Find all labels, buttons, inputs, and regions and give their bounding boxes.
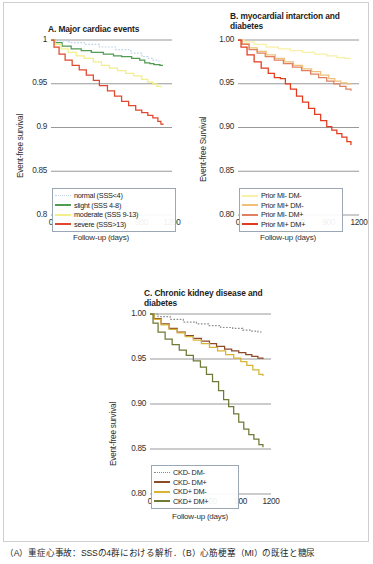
panel-a-y-tick-3: 0.85 [15, 166, 47, 175]
panel-c-curve-ckd_neg_dm_neg [150, 314, 263, 332]
panel-c-legend-item-ckd_neg_dm_neg[interactable]: CKD- DM- [154, 468, 235, 478]
panel-b-legend-label-mi_neg_dm_pos: Prior MI- DM+ [261, 210, 303, 219]
panel-b-y-tick-3: 0.85 [202, 166, 234, 175]
panel-b-y-tick-0: 1.00 [202, 35, 234, 44]
panel-a-legend[interactable]: normal (SSS<4)slight (SSS 4-8)moderate (… [52, 188, 176, 232]
panel-b-legend-label-mi_pos_dm_neg: Prior MI+ DM- [261, 201, 303, 210]
panel-a-legend-label-slight: slight (SSS 4-8) [74, 201, 121, 210]
panel-b-title: B. myocardial intarction and diabetes [230, 11, 358, 31]
panel-a-legend-item-severe[interactable]: severe (SSS>13) [55, 220, 172, 230]
panel-b-legend-item-mi_pos_dm_neg[interactable]: Prior MI+ DM- [242, 201, 339, 211]
legend-swatch-normal-icon [55, 192, 71, 199]
legend-swatch-ckd_pos_dm_neg-icon [154, 488, 170, 495]
panel-b-legend-label-mi_pos_dm_pos: Prior MI+ DM+ [261, 220, 305, 229]
panel-c-x-axis-label: Follow-up (days) [172, 512, 228, 521]
panel-c-y-axis-label: Event-free survival [109, 402, 118, 466]
legend-swatch-mi_neg_dm_pos-icon [242, 211, 258, 218]
panel-a-legend-item-moderate[interactable]: moderate (SSS 9-13) [55, 210, 172, 220]
panel-b-myocardial-infarction-diabetes: B. myocardial intarction and diabetes Ev… [186, 0, 373, 258]
panel-c-legend-item-ckd_pos_dm_pos[interactable]: CKD+ DM+ [154, 497, 235, 507]
figure-caption: （A）重症心事故：SSSの4群における解析．（B）心筋梗塞（MI）の既往と糖尿 [5, 546, 373, 558]
legend-swatch-moderate-icon [55, 211, 71, 218]
panel-c-curve-ckd_neg_dm_pos [150, 314, 263, 359]
panel-b-y-tick-1: 0.95 [202, 78, 234, 87]
panel-c-legend[interactable]: CKD- DM-CKD- DM+CKD+ DM-CKD+ DM+ [151, 465, 239, 509]
panel-b-legend[interactable]: Prior MI- DM-Prior MI+ DM-Prior MI- DM+P… [239, 188, 343, 232]
panel-b-legend-item-mi_neg_dm_pos[interactable]: Prior MI- DM+ [242, 210, 339, 220]
panel-a-y-tick-0: 1 [15, 35, 47, 44]
panel-c-x-tick-4: 1200 [257, 497, 285, 506]
panel-b-y-tick-2: 0.90 [202, 122, 234, 131]
panel-c-y-tick-1: 0.95 [114, 354, 146, 363]
panel-c-legend-item-ckd_neg_dm_pos[interactable]: CKD- DM+ [154, 478, 235, 488]
panel-c-legend-label-ckd_pos_dm_pos: CKD+ DM+ [173, 497, 208, 506]
panel-b-legend-item-mi_pos_dm_pos[interactable]: Prior MI+ DM+ [242, 220, 339, 230]
panel-a-legend-label-severe: severe (SSS>13) [74, 220, 126, 229]
panel-c-title: C. Chronic kidney disease and diabetes [144, 288, 279, 308]
panel-b-legend-label-mi_neg_dm_neg: Prior MI- DM- [261, 191, 302, 200]
panel-a-y-tick-2: 0.9 [15, 122, 47, 131]
panel-b-legend-item-mi_neg_dm_neg[interactable]: Prior MI- DM- [242, 191, 339, 201]
panel-c-legend-label-ckd_neg_dm_neg: CKD- DM- [173, 468, 205, 477]
panel-c-curve-ckd_pos_dm_pos [150, 314, 263, 447]
panel-a-x-axis-label: Follow-up (days) [73, 233, 129, 242]
legend-swatch-mi_pos_dm_neg-icon [242, 202, 258, 209]
panel-a-legend-item-normal[interactable]: normal (SSS<4) [55, 191, 172, 201]
legend-swatch-severe-icon [55, 221, 71, 228]
panel-a-legend-item-slight[interactable]: slight (SSS 4-8) [55, 201, 172, 211]
legend-swatch-ckd_neg_dm_neg-icon [154, 469, 170, 476]
panel-a-legend-label-moderate: moderate (SSS 9-13) [74, 210, 138, 219]
legend-swatch-ckd_neg_dm_pos-icon [154, 479, 170, 486]
panel-a-legend-label-normal: normal (SSS<4) [74, 191, 123, 200]
panel-a-major-cardiac-events: A. Major cardiac events Event-free survi… [0, 0, 186, 258]
panel-c-legend-label-ckd_neg_dm_pos: CKD- DM+ [173, 478, 206, 487]
panel-c-legend-item-ckd_pos_dm_neg[interactable]: CKD+ DM- [154, 487, 235, 497]
panel-c-legend-label-ckd_pos_dm_neg: CKD+ DM- [173, 487, 206, 496]
legend-swatch-mi_neg_dm_neg-icon [242, 192, 258, 199]
panel-a-title: A. Major cardiac events [48, 24, 178, 34]
panel-c-y-tick-2: 0.90 [114, 399, 146, 408]
panel-b-x-axis-label: Follow-up (days) [260, 233, 316, 242]
legend-swatch-slight-icon [55, 202, 71, 209]
panel-c-y-tick-3: 0.85 [114, 444, 146, 453]
panel-c-y-tick-0: 1.00 [114, 309, 146, 318]
legend-swatch-ckd_pos_dm_pos-icon [154, 498, 170, 505]
panel-a-y-tick-1: 0.95 [15, 78, 47, 87]
panel-c-chronic-kidney-disease-diabetes: C. Chronic kidney disease and diabetes E… [93, 280, 283, 542]
legend-swatch-mi_pos_dm_pos-icon [242, 221, 258, 228]
panel-b-x-tick-4: 1200 [345, 218, 373, 227]
